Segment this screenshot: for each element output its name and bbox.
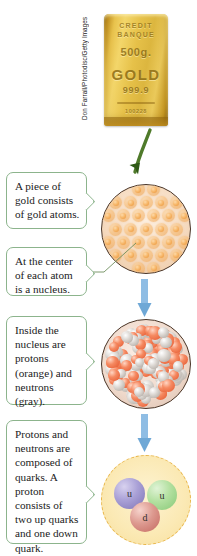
callout-quarks-text: Protons and neutrons are composed of qua… [15,428,78,554]
gold-bar-face: CREDIT BANQUE 500g. GOLD 999.9 100228 [110,21,162,113]
down-quark-red: d [130,502,160,532]
gold-atoms-circle [101,184,191,274]
gold-bar-fineness: 999.9 [123,85,150,95]
callout-nucleons-text: Inside the nucleus are protons (orange) … [15,324,72,407]
callout-nub [77,264,95,282]
quark-proton-circle: u u d [101,455,191,545]
callout-nub [77,192,95,210]
callout-nub [77,485,95,503]
callout-nucleus: At the center of each atom is a nucleus. [6,247,87,296]
callout-nub [77,352,95,370]
callout-gold-atoms: A piece of gold consists of gold atoms. [6,172,87,229]
callout-nucleus-text: At the center of each atom is a nucleus. [15,255,73,295]
callout-quarks: Protons and neutrons are composed of qua… [6,420,87,544]
nucleus-circle [101,319,191,409]
gold-bar-weight: 500g. [120,46,151,58]
gold-bar-serial: 100228 [125,108,147,114]
photo-credit: Don Farrall/Photodisc/Getty Images [79,8,91,128]
gold-bar-photo: CREDIT BANQUE 500g. GOLD 999.9 100228 [104,14,168,126]
gold-bar-brand-line2: BANQUE [117,31,155,39]
callout-nucleons: Inside the nucleus are protons (orange) … [6,316,87,405]
gold-bar-brand-line1: CREDIT [119,22,152,30]
callout-gold-atoms-text: A piece of gold consists of gold atoms. [15,180,79,220]
gold-bar-metal: GOLD [112,66,161,83]
atomic-structure-figure: Don Farrall/Photodisc/Getty Images CREDI… [0,0,197,556]
gold-bar: CREDIT BANQUE 500g. GOLD 999.9 100228 [104,14,168,126]
gold-bar-stamp-box [117,102,155,104]
